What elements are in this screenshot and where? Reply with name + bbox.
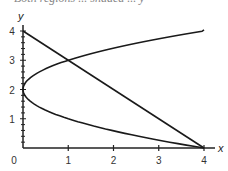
y-tick-label: 3 [9, 55, 15, 66]
x-tick-label: 3 [156, 155, 162, 166]
y-axis-label: y [17, 10, 25, 22]
plot-area: 012341234xy [0, 0, 228, 171]
x-tick-label: 4 [201, 155, 207, 166]
parabola-lower-branch [23, 90, 204, 149]
x-tick-label: 0 [11, 155, 17, 166]
y-tick-label: 2 [9, 85, 15, 96]
parabola-upper-branch [23, 30, 204, 90]
y-tick-label: 1 [9, 114, 15, 125]
x-tick-label: 1 [65, 155, 71, 166]
x-tick-label: 2 [111, 155, 117, 166]
y-tick-label: 4 [9, 26, 15, 37]
x-axis-label: x [217, 142, 224, 154]
